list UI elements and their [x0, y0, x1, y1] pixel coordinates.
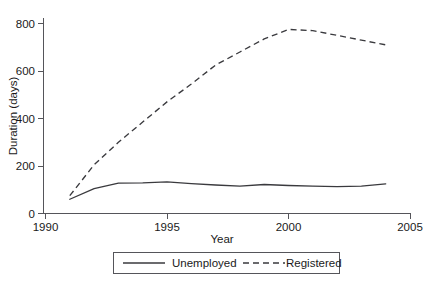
series-line-unemployed: [70, 182, 386, 199]
x-tick-label-1995: 1995: [154, 221, 180, 233]
legend-label-registered: Registered: [286, 257, 342, 269]
x-axis-ticks: 1990 1995 2000 2005: [33, 214, 423, 234]
chart-legend: Unemployed Registered: [114, 253, 342, 274]
x-tick-label-2005: 2005: [397, 221, 423, 233]
y-tick-label-0: 0: [29, 208, 35, 220]
y-tick-label-600: 600: [16, 65, 35, 77]
legend-label-unemployed: Unemployed: [172, 257, 237, 269]
y-axis-title: Duration (days): [7, 77, 19, 156]
series-line-registered: [70, 29, 386, 195]
duration-by-year-line-chart: 0 200 400 600 800 1990 1995 2000 2005 Ye…: [0, 0, 430, 289]
x-axis-title: Year: [210, 233, 233, 245]
x-tick-label-2000: 2000: [276, 221, 302, 233]
x-tick-label-1990: 1990: [33, 221, 59, 233]
y-tick-label-200: 200: [16, 160, 35, 172]
chart-figure: 0 200 400 600 800 1990 1995 2000 2005 Ye…: [0, 0, 430, 289]
y-tick-label-800: 800: [16, 18, 35, 30]
y-axis-ticks: 0 200 400 600 800: [16, 18, 44, 220]
